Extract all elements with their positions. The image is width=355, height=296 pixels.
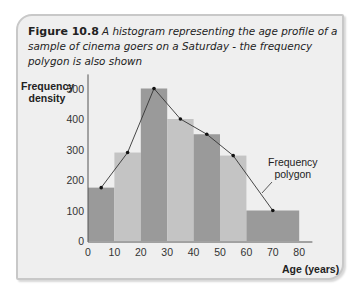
histogram-bar — [194, 134, 220, 241]
y-tick-label: 500 — [66, 83, 84, 95]
frequency-polygon-point — [126, 151, 130, 155]
x-tick-label: 70 — [267, 246, 279, 258]
frequency-polygon-point — [205, 132, 209, 136]
frequency-polygon-point — [231, 154, 235, 158]
y-tick-label: 400 — [66, 113, 84, 125]
frequency-polygon-point — [152, 87, 156, 91]
x-tick-label: 80 — [293, 246, 305, 258]
x-tick-label: 60 — [241, 246, 253, 258]
y-tick-label: 0 — [78, 235, 84, 247]
histogram-bar — [114, 153, 140, 241]
frequency-polygon-point — [99, 186, 103, 190]
x-axis-label: Age (years) — [282, 263, 339, 275]
x-tick-label: 20 — [135, 246, 147, 258]
frequency-polygon-point — [179, 117, 183, 121]
x-tick-label: 30 — [161, 246, 173, 258]
x-tick-label: 40 — [188, 246, 200, 258]
y-tick-label: 300 — [66, 144, 84, 156]
histogram-bar — [246, 211, 299, 242]
x-tick-label: 0 — [85, 246, 91, 258]
x-tick-label: 10 — [109, 246, 121, 258]
x-tick-label: 50 — [214, 246, 226, 258]
frequency-polygon-label: Frequency polygon — [268, 156, 318, 180]
histogram-bar — [88, 188, 114, 241]
histogram-bar — [167, 119, 193, 241]
y-tick-label: 200 — [66, 174, 84, 186]
y-tick-label: 100 — [66, 205, 84, 217]
annotation-leader-line — [262, 182, 272, 193]
histogram-chart: 010020030040050001020304050607080 — [0, 0, 355, 296]
frequency-polygon-point — [271, 209, 275, 213]
polygon-label-line2: polygon — [268, 168, 318, 180]
polygon-label-line1: Frequency — [268, 156, 318, 168]
